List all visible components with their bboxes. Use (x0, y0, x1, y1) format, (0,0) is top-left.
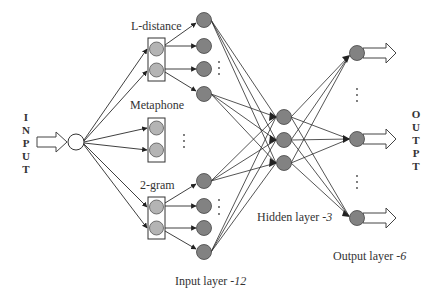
output-arrow-icons (363, 43, 396, 228)
output-arrowheads (342, 55, 350, 217)
input-side-label: I N P U T (20, 111, 32, 176)
input-letter: P (20, 137, 32, 150)
layer-label-text: Hidden layer - (257, 210, 326, 224)
group-l-distance (148, 38, 165, 81)
output-letter: U (410, 121, 422, 134)
layer-count: 3 (326, 210, 332, 224)
input-letter: I (20, 111, 32, 124)
output-letter: T (410, 160, 422, 173)
output-letter: O (410, 108, 422, 121)
layer-label-text: Input layer - (175, 274, 234, 288)
hidden-layer-nodes (277, 110, 292, 171)
input-layer-nodes (197, 13, 212, 260)
group-label-2-gram: 2-gram (140, 178, 175, 193)
input-letter: U (20, 150, 32, 163)
hidden-to-output-connections (291, 56, 349, 216)
input-letter: T (20, 163, 32, 176)
input-to-group-connections (84, 49, 147, 228)
input-arrow-icon (37, 132, 67, 152)
group-label-l-distance: L-distance (131, 19, 182, 34)
group-metaphone (148, 118, 165, 162)
layer-label-text: Output layer - (333, 249, 400, 263)
output-letter: T (410, 134, 422, 147)
layer-count: 12 (234, 274, 246, 288)
group-to-input-layer-connections (165, 23, 196, 249)
input-node (68, 134, 84, 150)
hidden-layer-label: Hidden layer -3 (257, 210, 332, 225)
group-label-metaphone: Metaphone (130, 98, 184, 113)
group-2-gram (148, 197, 165, 239)
input-layer-label: Input layer -12 (175, 274, 246, 289)
layer-count: 6 (400, 249, 406, 263)
output-layer-nodes (350, 46, 365, 226)
output-side-label: O U T P T (410, 108, 422, 173)
input-letter: N (20, 124, 32, 137)
output-layer-label: Output layer -6 (333, 249, 406, 264)
output-letter: P (410, 147, 422, 160)
